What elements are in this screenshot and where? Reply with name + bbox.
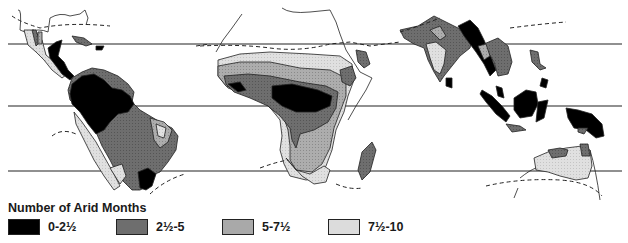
legend-swatch-dark-gray (116, 219, 148, 235)
legend: 0-2½ 2½-5 5-7½ 7½-10 (8, 218, 428, 236)
legend-label: 5-7½ (262, 220, 291, 234)
region-americas (18, 10, 178, 190)
region-africa (216, 8, 376, 184)
legend-label: 0-2½ (48, 220, 77, 234)
legend-label: 7½-10 (368, 220, 403, 234)
legend-item-7.5-10: 7½-10 (328, 218, 403, 236)
legend-title: Number of Arid Months (8, 201, 146, 215)
legend-swatch-light-gray (328, 219, 360, 235)
legend-item-2.5-5: 2½-5 (116, 218, 185, 236)
legend-swatch-black (8, 219, 40, 235)
legend-label: 2½-5 (156, 220, 185, 234)
legend-item-5-7.5: 5-7½ (222, 218, 291, 236)
legend-item-0-2.5: 0-2½ (8, 218, 77, 236)
legend-swatch-medium-gray (222, 219, 254, 235)
